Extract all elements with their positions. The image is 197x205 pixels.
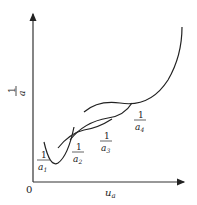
curve-a4 [84, 27, 182, 112]
label-a1: 1 a1 [37, 150, 50, 173]
svg-text:a2: a2 [73, 154, 82, 165]
svg-text:1: 1 [104, 131, 110, 141]
curve-a3 [70, 103, 132, 140]
diagram-svg: 0 ua 1 a 1 a1 1 a2 1 a3 1 a4 [0, 0, 197, 205]
label-a3: 1 a3 [100, 131, 112, 154]
svg-text:1: 1 [7, 87, 17, 93]
svg-text:1: 1 [76, 142, 82, 152]
svg-text:a4: a4 [135, 122, 144, 133]
svg-text:a1: a1 [38, 162, 47, 173]
svg-text:1: 1 [41, 150, 47, 160]
label-a2: 1 a2 [72, 142, 84, 165]
svg-text:a3: a3 [101, 143, 110, 154]
x-axis-label: ua [105, 187, 116, 200]
svg-text:1: 1 [138, 110, 144, 120]
svg-text:a: a [17, 91, 27, 96]
origin-label: 0 [26, 184, 32, 195]
y-axis-label: 1 a [7, 86, 27, 96]
diagram-canvas: 0 ua 1 a 1 a1 1 a2 1 a3 1 a4 [0, 0, 197, 205]
curve-a1 [44, 127, 74, 164]
label-a4: 1 a4 [134, 110, 146, 133]
